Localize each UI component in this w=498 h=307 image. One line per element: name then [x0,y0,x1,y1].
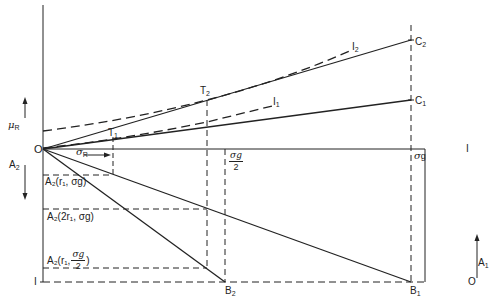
B1-subscript: 1 [417,290,421,297]
label-one-top-right: I [466,144,469,154]
label-sigma-g-half: σg 2 [229,151,243,172]
line-O-B1 [43,149,411,282]
mu-R-arrowhead [23,97,28,104]
curve-I2 [43,50,352,131]
label-origin: O [34,144,43,155]
label-one-bottom-left: I [34,277,37,287]
A2-r1-half-fraction: σg 2 [71,250,85,271]
label-A2-r1-sg-half: A₂(r₁, σg 2 ) [47,250,90,271]
sigma-R-arrowhead [104,153,111,158]
B2-letter: B [225,285,232,296]
label-T1: T1 [108,128,118,139]
A2-axis-subscript: 2 [16,164,20,171]
sigma-g-half-numerator: σg [229,151,243,162]
A2-r1-half-numerator: σg [71,250,85,261]
sigma-g-symbol: σ [414,150,421,161]
label-zero-bottom-right: O [468,277,476,287]
label-A2-axis: A2 [9,160,20,171]
A2-r1-half-denominator: 2 [71,261,85,271]
T1-subscript: 1 [114,132,118,139]
A1-axis-subscript: 1 [485,262,489,269]
sigma-g-half-denominator: 2 [229,162,243,172]
C1-subscript: 1 [422,100,426,107]
T2-subscript: 2 [206,90,210,97]
label-A1-axis: A1 [478,258,489,269]
mu-subscript: R [15,124,20,131]
sigma-R-symbol: σ [76,146,83,157]
A2-arrowhead [23,193,28,200]
A1-axis-letter: A [478,257,485,268]
label-I1: I1 [273,97,280,108]
A2-r1-half-prefix: A₂(r₁, [47,255,70,266]
label-C2: C2 [415,37,426,48]
I1-subscript: 1 [276,101,280,108]
C2-subscript: 2 [422,41,426,48]
label-C1: C1 [415,96,426,107]
label-sigma-g: σg [414,151,426,161]
sigma-R-subscript: R [83,151,88,158]
label-B1: B1 [410,286,421,297]
B1-letter: B [410,285,417,296]
A2-r1-half-suffix: ) [86,255,89,266]
label-I2: I2 [352,42,359,53]
sigma-g-subscript: g [421,151,426,161]
label-A2-r1-sg: A₂(r₁, σg) [45,177,86,187]
label-A2-2r1-sg: A₂(2r₁, σg) [47,212,94,222]
I2-subscript: 2 [355,46,359,53]
label-sigma-R: σR [76,147,88,158]
B2-subscript: 2 [232,290,236,297]
label-B2: B2 [225,286,236,297]
A1-arrowhead [475,234,480,241]
line-O-C1 [43,100,411,149]
A2-axis-letter: A [9,159,16,170]
label-T2: T2 [200,86,210,97]
label-mu-R: μR [8,120,20,131]
